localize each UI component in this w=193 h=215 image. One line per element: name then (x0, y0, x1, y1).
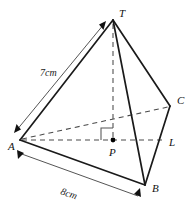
hidden-edges-group (22, 24, 168, 140)
edge-A-C-hidden (22, 107, 168, 139)
right-angle-marker-at-P (101, 128, 113, 140)
dimension-7cm-arrow-bottom (14, 124, 21, 133)
dimension-8cm-group (17, 150, 141, 197)
dimension-7cm-group (14, 21, 106, 133)
edge-T-A (20, 20, 113, 140)
dimension-label-8cm: 8cm (59, 185, 78, 201)
dimension-7cm-line (16, 24, 104, 131)
vertex-label-A: A (7, 140, 15, 152)
vertex-label-P: P (108, 146, 116, 158)
geometry-figure: T A B C P L 7cm 8cm (0, 0, 193, 215)
vertex-label-T: T (119, 7, 126, 19)
dimension-label-7cm: 7cm (40, 67, 57, 78)
vertex-label-L: L (168, 136, 175, 148)
vertex-label-C: C (177, 94, 185, 106)
edge-A-B (20, 140, 145, 185)
edge-B-C (145, 106, 170, 185)
vertex-dot-P (111, 138, 116, 143)
solid-edges-group (20, 20, 170, 185)
tetrahedron-diagram: T A B C P L 7cm 8cm (0, 0, 193, 215)
vertex-label-B: B (152, 182, 159, 194)
dimension-8cm-line (19, 153, 138, 196)
